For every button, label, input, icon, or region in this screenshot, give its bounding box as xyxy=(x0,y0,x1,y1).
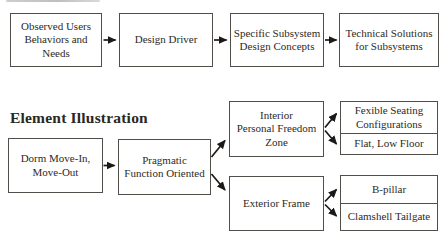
flow-box-design-driver: Design Driver xyxy=(119,13,213,67)
flow-box-observed-users-behaviors-needs: Observed Users Behaviors and Needs xyxy=(10,13,102,67)
flow-box-fexible-seating-configurations: Fexible Seating Configurations xyxy=(341,102,437,134)
flow-box-interior-personal-freedom-zone: Interior Personal Freedom Zone xyxy=(229,101,324,157)
arrow-interior-to-fexible-seating xyxy=(325,114,337,128)
arrow-interior-to-flat-floor xyxy=(325,131,337,145)
solution-stack-interior: Fexible Seating Configurations Flat, Low… xyxy=(340,101,438,155)
flow-box-exterior-frame: Exterior Frame xyxy=(229,176,324,231)
arrow-exterior-to-clamshell xyxy=(325,205,337,217)
flow-box-clamshell-tailgate: Clamshell Tailgate xyxy=(341,204,437,230)
cropped-heading-remnant xyxy=(6,0,100,2)
flow-box-technical-solutions-for-subsystems: Technical Solutions for Subsystems xyxy=(339,13,439,67)
flow-box-b-pillar: B-pillar xyxy=(341,176,437,204)
arrow-pragmatic-to-exterior xyxy=(212,174,226,190)
arrow-exterior-to-bpillar xyxy=(325,190,337,202)
flow-box-pragmatic-function-oriented: Pragmatic Function Oriented xyxy=(118,139,211,195)
solution-stack-exterior: B-pillar Clamshell Tailgate xyxy=(340,175,438,231)
arrow-pragmatic-to-interior xyxy=(212,141,226,158)
flow-box-flat-low-floor: Flat, Low Floor xyxy=(341,134,437,154)
section-heading-element-illustration: Element Illustration xyxy=(10,109,148,127)
flow-box-specific-subsystem-design-concepts: Specific Subsystem Design Concepts xyxy=(230,13,324,67)
flow-box-dorm-move-in-move-out: Dorm Move-In, Move-Out xyxy=(8,138,103,193)
flow-diagram: Observed Users Behaviors and Needs Desig… xyxy=(0,0,443,240)
